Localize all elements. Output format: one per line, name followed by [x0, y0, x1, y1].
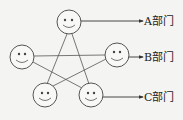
- edge-top-bottom-right: [72, 34, 89, 84]
- smiley-face-icon: [105, 43, 129, 67]
- person-right: [105, 43, 129, 67]
- person-bottom-right: [79, 83, 103, 107]
- edge-top-bottom-left: [47, 34, 67, 84]
- person-top: [57, 10, 81, 34]
- edge-left-right: [34, 55, 105, 56]
- edge-right-bottom-left: [53, 59, 106, 86]
- label-department-a: A部门: [143, 14, 174, 28]
- label-department-c: C部门: [144, 90, 174, 104]
- label-department-b: B部门: [144, 50, 174, 64]
- person-left: [10, 45, 34, 69]
- connection-lines: [33, 34, 106, 88]
- smiley-face-icon: [57, 10, 81, 34]
- smiley-face-icon: [33, 83, 57, 107]
- smiley-face-icon: [10, 45, 34, 69]
- person-bottom-left: [33, 83, 57, 107]
- network-diagram: A部门 B部门 C部门: [0, 0, 183, 120]
- smiley-face-icon: [79, 83, 103, 107]
